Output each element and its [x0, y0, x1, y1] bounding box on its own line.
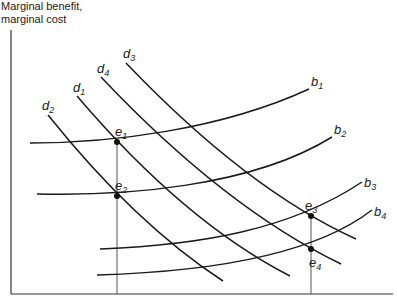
label-e1: e1	[115, 124, 127, 141]
label-e2: e2	[115, 178, 127, 195]
equilibrium-point-e2	[114, 193, 120, 199]
demand-curve-d2	[48, 115, 223, 281]
label-e4: e4	[309, 255, 321, 272]
benefit-curve-b2	[37, 137, 332, 194]
label-d4: d4	[97, 61, 109, 78]
equilibrium-point-e1	[114, 139, 120, 145]
label-b1: b1	[311, 74, 323, 91]
benefit-curve-b1	[30, 89, 309, 143]
label-d1: d1	[73, 80, 85, 97]
label-d3: d3	[123, 46, 135, 63]
label-b2: b2	[334, 122, 346, 139]
label-b3: b3	[364, 175, 376, 192]
label-b4: b4	[374, 204, 386, 221]
economics-diagram: Marginal benefit, marginal cost b1b2b3b4…	[0, 0, 397, 300]
label-d2: d2	[42, 98, 54, 115]
demand-curves: d2d1d4d3	[42, 46, 356, 281]
equilibrium-point-e4	[308, 246, 314, 252]
label-e3: e3	[305, 198, 317, 215]
plot-area: b1b2b3b4 d2d1d4d3 e1e2e3e4	[0, 0, 397, 300]
